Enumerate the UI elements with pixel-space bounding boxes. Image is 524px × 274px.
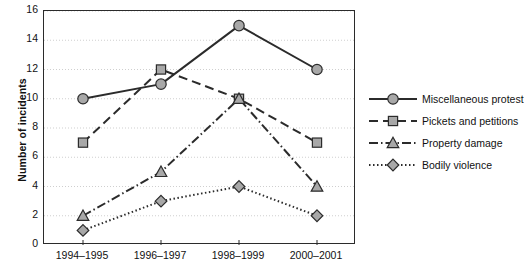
legend-key-circle-icon bbox=[368, 89, 418, 109]
y-axis-tick-label: 6 bbox=[16, 150, 38, 161]
legend-item[interactable]: Property damage bbox=[368, 132, 522, 154]
data-point-marker bbox=[312, 64, 322, 74]
data-point-marker bbox=[77, 210, 89, 220]
data-point-marker bbox=[312, 138, 321, 147]
y-axis-tick-label: 8 bbox=[16, 121, 38, 132]
legend-key-diamond-icon bbox=[368, 155, 418, 175]
y-axis-tick-label: 12 bbox=[16, 63, 38, 74]
data-point-marker bbox=[78, 94, 88, 104]
y-axis-tick-label: 0 bbox=[16, 238, 38, 249]
x-axis-tick-label: 1994–1995 bbox=[56, 249, 109, 261]
legend-key-triangle-icon bbox=[368, 133, 418, 153]
x-axis-tick-labels: 1994–19951996–19971998–19992000–2001 bbox=[43, 247, 355, 267]
plot-svg bbox=[44, 11, 356, 245]
x-axis-tick-label: 2000–2001 bbox=[290, 249, 343, 261]
plot-area bbox=[43, 10, 355, 244]
series-line-2 bbox=[83, 70, 317, 143]
series-line-1 bbox=[83, 26, 317, 99]
data-point-marker bbox=[155, 195, 167, 207]
legend-key-square-icon bbox=[368, 111, 418, 131]
legend-item-label: Property damage bbox=[422, 137, 503, 149]
legend-item-label: Pickets and petitions bbox=[422, 115, 518, 127]
data-point-marker bbox=[78, 138, 87, 147]
y-axis-tick-label: 16 bbox=[16, 4, 38, 15]
y-axis-tick-label: 4 bbox=[16, 180, 38, 191]
x-axis-tick-label: 1998–1999 bbox=[212, 249, 265, 261]
legend-item-label: Bodily violence bbox=[422, 159, 492, 171]
y-axis-tick-label: 10 bbox=[16, 92, 38, 103]
data-point-marker bbox=[156, 79, 166, 89]
y-axis-tick-label: 14 bbox=[16, 33, 38, 44]
legend-item[interactable]: Miscellaneous protest bbox=[368, 88, 522, 110]
data-point-marker bbox=[311, 181, 323, 191]
y-axis-tick-labels: 0246810121416 bbox=[14, 0, 38, 274]
y-axis-tick-label: 2 bbox=[16, 209, 38, 220]
legend-item-label: Miscellaneous protest bbox=[422, 93, 524, 105]
x-axis-tick-label: 1996–1997 bbox=[134, 249, 187, 261]
legend-item[interactable]: Pickets and petitions bbox=[368, 110, 522, 132]
series-line-4 bbox=[83, 187, 317, 231]
data-point-marker bbox=[77, 225, 89, 237]
data-point-marker bbox=[234, 20, 244, 30]
legend-item[interactable]: Bodily violence bbox=[368, 154, 522, 176]
data-point-marker bbox=[156, 65, 165, 74]
data-point-marker bbox=[233, 181, 245, 193]
chart-legend: Miscellaneous protestPickets and petitio… bbox=[368, 88, 522, 176]
data-point-marker bbox=[311, 210, 323, 222]
